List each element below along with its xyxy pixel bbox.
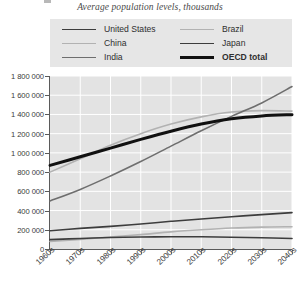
legend-swatch-icon bbox=[180, 29, 214, 30]
y-axis-tick-label: 1 800 000 bbox=[11, 72, 44, 81]
series-line bbox=[50, 87, 292, 201]
legend-item[interactable]: Japan bbox=[180, 37, 290, 51]
y-axis-tick-label: 600 000 bbox=[17, 187, 44, 196]
y-axis-tick-label: 1 200 000 bbox=[11, 129, 44, 138]
y-axis-tick-label: 800 000 bbox=[17, 168, 44, 177]
legend-label: India bbox=[104, 53, 123, 62]
y-axis-tick-label: 400 000 bbox=[17, 206, 44, 215]
legend-column-left: United StatesChinaIndia bbox=[62, 23, 174, 65]
legend-swatch-icon bbox=[62, 29, 96, 30]
legend-item[interactable]: China bbox=[62, 37, 174, 51]
series-line bbox=[50, 115, 292, 166]
legend-column-right: BrazilJapanOECD total bbox=[180, 23, 290, 65]
legend-swatch-icon bbox=[180, 43, 214, 44]
legend-swatch-icon bbox=[62, 43, 96, 44]
x-axis-labels: 1960s1970s1980s1990s2000s2010s2020s2030s… bbox=[0, 254, 300, 302]
y-axis-tick-label: 1 400 000 bbox=[11, 110, 44, 119]
plot-region bbox=[50, 76, 292, 249]
y-axis-tick-label: 1 000 000 bbox=[11, 148, 44, 157]
legend-label: United States bbox=[104, 25, 156, 34]
series-lines bbox=[50, 76, 292, 249]
series-line bbox=[50, 227, 292, 242]
legend-item[interactable]: Brazil bbox=[180, 23, 290, 37]
legend-label: OECD total bbox=[222, 53, 267, 62]
series-line bbox=[50, 111, 292, 173]
y-axis-tick-label: 1 600 000 bbox=[11, 91, 44, 100]
legend-item[interactable]: United States bbox=[62, 23, 174, 37]
legend-label: Japan bbox=[222, 39, 245, 48]
legend-item[interactable]: OECD total bbox=[180, 51, 290, 65]
legend-swatch-icon bbox=[62, 57, 96, 58]
legend-swatch-icon bbox=[180, 56, 214, 59]
chart-area: 1 800 0001 600 0001 400 0001 200 0001 00… bbox=[0, 68, 300, 302]
chart-subtitle: Average population levels, thousands bbox=[0, 2, 300, 12]
y-axis-tick-label: 200 000 bbox=[17, 225, 44, 234]
legend-label: China bbox=[104, 39, 126, 48]
legend-item[interactable]: India bbox=[62, 51, 174, 65]
legend-label: Brazil bbox=[222, 25, 244, 34]
chart-legend: United StatesChinaIndia BrazilJapanOECD … bbox=[50, 19, 292, 67]
y-axis-labels: 1 800 0001 600 0001 400 0001 200 0001 00… bbox=[0, 68, 47, 254]
